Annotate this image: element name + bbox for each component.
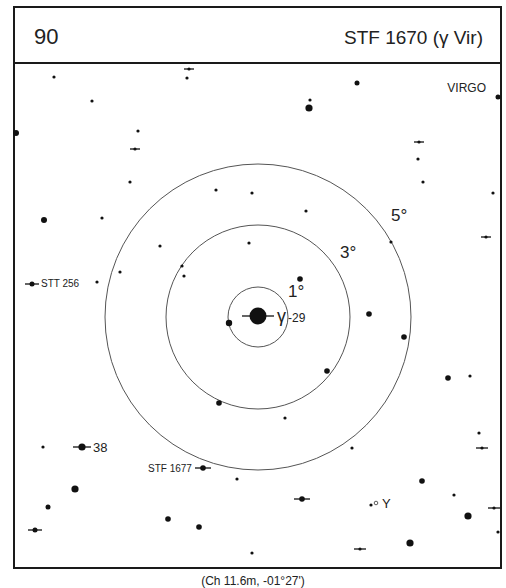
star [445,375,451,381]
star [128,180,131,183]
constellation-label: VIRGO [447,81,486,95]
variable-star [374,501,378,505]
star [41,445,44,448]
double-star [195,465,211,471]
star [350,446,353,449]
star-label: γ [277,306,286,326]
double-star [130,147,140,150]
star [71,485,78,492]
star [421,180,424,183]
double-star [481,235,491,238]
star [304,209,307,212]
star [283,416,286,419]
star [158,244,161,247]
star [235,477,238,480]
star [226,320,232,326]
chart-title: STF 1670 (γ Vir) [344,27,483,48]
double-star [73,443,91,450]
double-star [354,547,366,550]
chart-caption: (Ch 11.6m, -01°27') [0,574,506,588]
star [452,493,455,496]
star [324,368,330,374]
star [297,276,303,282]
star [468,374,471,377]
star [180,264,183,267]
star [401,334,407,340]
star [406,539,413,546]
star [136,129,139,132]
star [196,524,202,530]
star-label: -29 [288,311,306,325]
star [496,95,501,100]
star [165,516,171,522]
double-star [476,446,488,449]
double-star [184,67,194,70]
ring-label: 1° [288,282,304,301]
star [369,503,372,506]
double-star [28,528,42,533]
star [389,240,392,243]
star [247,241,250,244]
ring-label: 3° [340,243,356,262]
double-star [294,496,310,502]
double-star [242,308,274,325]
double-star [488,506,500,509]
star [366,311,372,317]
star [250,551,253,554]
star [182,274,185,277]
star [52,75,55,78]
star [90,99,93,102]
ring-label: 5° [391,206,407,225]
star [419,478,425,484]
star [491,191,494,194]
star [305,104,312,111]
star-label: Y [382,496,391,511]
star [214,188,217,191]
star [416,157,419,160]
star [100,216,103,219]
star [46,505,51,510]
star-label: STF 1677 [148,463,192,474]
star [496,530,499,533]
double-star [414,140,424,143]
star-label: 38 [93,440,107,455]
star [118,270,121,273]
star [41,217,47,223]
double-star [25,282,39,287]
star [185,76,188,79]
star [216,400,222,406]
star [250,191,253,194]
star [308,98,311,101]
star [13,130,19,136]
star [355,81,360,86]
star-label: STT 256 [41,278,80,289]
chart-number: 90 [34,24,58,49]
star [95,280,98,283]
star-labels: γ-29STT 25638STF 1677Y [41,278,391,511]
star-field [13,67,501,554]
star [464,512,471,519]
star [477,431,480,434]
